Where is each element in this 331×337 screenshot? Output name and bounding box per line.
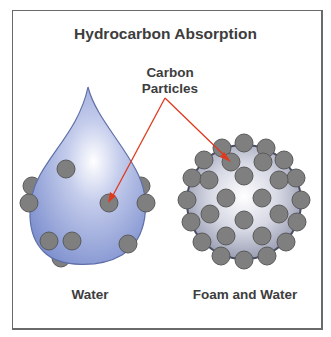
callout-line-2: Particles [125, 81, 215, 97]
water-drop [20, 87, 155, 267]
callout-line-1: Carbon [125, 65, 215, 81]
foam-sphere [178, 134, 310, 269]
diagram-title: Hydrocarbon Absorption [0, 25, 331, 43]
foam-label: Foam and Water [180, 287, 310, 302]
water-label: Water [50, 287, 130, 302]
arrow-to-sphere [165, 98, 227, 158]
callout-label: Carbon Particles [125, 65, 215, 97]
